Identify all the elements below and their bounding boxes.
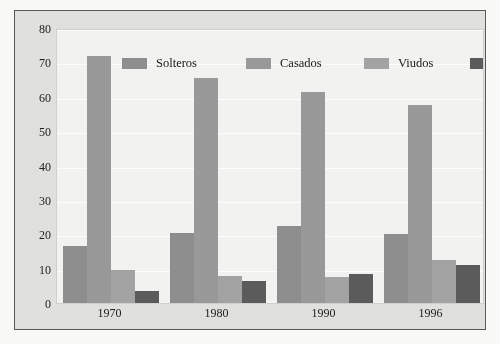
legend-item[interactable]: Viudos	[364, 57, 433, 70]
bar	[194, 78, 218, 303]
bar	[349, 274, 373, 303]
x-axis-labels: 1970198019901996	[56, 307, 484, 329]
y-tick-label: 80	[17, 23, 51, 35]
bar	[408, 105, 432, 303]
y-tick-label: 30	[17, 195, 51, 207]
bar	[325, 277, 349, 303]
y-tick-label: 10	[17, 264, 51, 276]
legend-item[interactable]: Casados	[246, 57, 322, 70]
gridline	[57, 30, 483, 31]
y-tick-label: 50	[17, 126, 51, 138]
x-tick-label: 1990	[312, 307, 336, 319]
y-axis-labels: 01020304050607080	[15, 29, 51, 304]
gridline	[57, 99, 483, 100]
y-tick-label: 40	[17, 161, 51, 173]
legend-swatch-icon	[470, 58, 484, 69]
bar	[111, 270, 135, 303]
x-tick-label: 1970	[98, 307, 122, 319]
bar	[277, 226, 301, 303]
bar	[63, 246, 87, 303]
chart-page: 01020304050607080 SolterosCasadosViudosD…	[0, 0, 500, 344]
y-tick-label: 20	[17, 229, 51, 241]
bar	[87, 56, 111, 304]
bar	[456, 265, 480, 303]
bar	[170, 233, 194, 303]
bar	[135, 291, 159, 303]
legend-label: Solteros	[156, 57, 197, 70]
bar	[242, 281, 266, 303]
legend-swatch-icon	[364, 58, 389, 69]
y-tick-label: 70	[17, 57, 51, 69]
legend-swatch-icon	[122, 58, 147, 69]
bar	[301, 92, 325, 303]
chart-legend: SolterosCasadosViudosDivorciados	[98, 52, 484, 74]
legend-label: Casados	[280, 57, 322, 70]
plot-area: SolterosCasadosViudosDivorciados	[56, 29, 484, 304]
legend-item[interactable]: Divorciados	[470, 57, 484, 70]
bar	[218, 276, 242, 304]
y-tick-label: 0	[17, 298, 51, 310]
figure-frame: 01020304050607080 SolterosCasadosViudosD…	[14, 10, 486, 330]
bar	[432, 260, 456, 303]
legend-item[interactable]: Solteros	[122, 57, 197, 70]
y-tick-label: 60	[17, 92, 51, 104]
legend-swatch-icon	[246, 58, 271, 69]
x-tick-label: 1980	[205, 307, 229, 319]
legend-label: Viudos	[398, 57, 433, 70]
x-tick-label: 1996	[419, 307, 443, 319]
bar	[384, 234, 408, 303]
